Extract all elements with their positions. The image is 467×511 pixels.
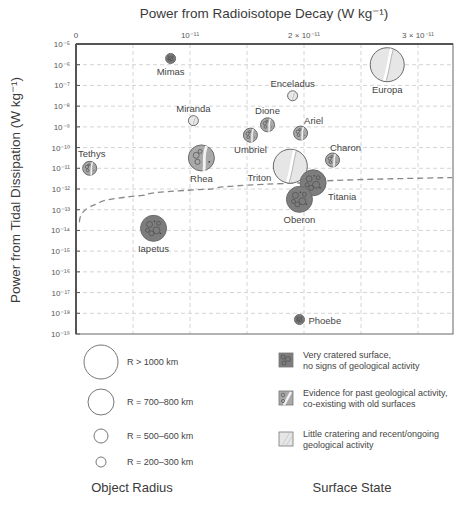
svg-text:co-existing with old surfaces: co-existing with old surfaces [303, 399, 416, 409]
svg-text:R = 700–800 km: R = 700–800 km [127, 397, 193, 407]
svg-text:Little cratering and recent/on: Little cratering and recent/ongoing [303, 429, 439, 439]
y-tick-label: 10⁻⁶ [54, 61, 70, 70]
moon-oberon: Oberon [284, 186, 316, 225]
moon-tethys: Tethys [78, 148, 106, 175]
y-tick-label: 10⁻¹³ [52, 206, 71, 215]
y-tick-label: 10⁻¹¹ [52, 164, 71, 173]
x-tick-label: 0 [74, 31, 79, 40]
moon-dione: Dione [255, 105, 280, 132]
y-tick-label: 10⁻⁸ [54, 102, 70, 111]
y-tick-label: 10⁻⁵ [54, 40, 70, 49]
data-points: MimasTethysMirandaRheaIapetusEnceladusEu… [78, 48, 404, 326]
y-tick-label: 10⁻¹⁸ [51, 309, 70, 318]
legend-surface-item-past: Evidence for past geological activity,co… [279, 388, 447, 409]
moon-label: Umbriel [234, 144, 267, 155]
moon-miranda: Miranda [176, 103, 211, 126]
y-tick-label: 10⁻¹⁴ [51, 226, 71, 235]
moon-mimas: Mimas [157, 54, 185, 77]
moon-umbriel: Umbriel [234, 128, 267, 155]
svg-text:Very cratered surface,: Very cratered surface, [303, 350, 391, 360]
moon-label: Tethys [78, 148, 106, 159]
reference-curve [79, 178, 452, 223]
legend-surface-state: Very cratered surface,no signs of geolog… [279, 350, 447, 495]
moon-phoebe: Phoebe [294, 315, 341, 326]
x-tick-label: 3 × 10⁻¹¹ [402, 31, 434, 40]
moon-label: Enceladus [270, 78, 315, 89]
svg-text:geological activity: geological activity [303, 440, 374, 450]
svg-text:no signs of geological activit: no signs of geological activity [303, 361, 420, 371]
moon-label: Iapetus [138, 243, 169, 254]
moon-label: Ariel [304, 115, 323, 126]
moon-europa: Europa [370, 48, 404, 95]
y-tick-label: 10⁻¹⁵ [51, 247, 70, 256]
moon-label: Charon [330, 142, 361, 153]
moon-label: Titania [328, 191, 357, 202]
legend-size-item: R > 1000 km [84, 345, 178, 379]
x-tick-label: 10⁻¹¹ [181, 31, 200, 40]
svg-text:R > 1000 km: R > 1000 km [127, 357, 178, 367]
legend-size-item: R = 700–800 km [88, 389, 193, 415]
moon-label: Phoebe [308, 315, 341, 326]
y-axis-title: Power from Tidal Dissipation (W kg⁻¹) [8, 77, 23, 303]
y-tick-label: 10⁻¹⁷ [52, 289, 71, 298]
y-tick-label: 10⁻⁹ [54, 123, 70, 132]
legend-size-item: R = 200–300 km [96, 457, 193, 467]
moon-label: Rhea [190, 173, 213, 184]
legend-size-title: Object Radius [91, 480, 173, 495]
x-tick-label: 2 × 10⁻¹¹ [288, 31, 320, 40]
y-tick-label: 10⁻¹⁹ [51, 330, 70, 339]
svg-text:R = 500–600 km: R = 500–600 km [127, 431, 193, 441]
moon-charon: Charon [326, 142, 362, 167]
moon-enceladus: Enceladus [270, 78, 315, 101]
x-axis-title: Power from Radioisotope Decay (W kg⁻¹) [140, 6, 389, 21]
y-tick-label: 10⁻¹² [52, 185, 71, 194]
legend-surface-item-cratered: Very cratered surface,no signs of geolog… [279, 350, 420, 371]
moon-label: Mimas [157, 66, 185, 77]
moon-label: Triton [247, 172, 271, 183]
moon-iapetus: Iapetus [138, 215, 169, 254]
moon-rhea: Rhea [188, 145, 214, 184]
legend-surface-title: Surface State [313, 480, 392, 495]
y-tick-label: 10⁻¹⁶ [51, 268, 70, 277]
moon-label: Dione [255, 105, 280, 116]
moon-label: Europa [372, 84, 403, 95]
moon-label: Miranda [176, 103, 211, 114]
legend-surface-item-active: Little cratering and recent/ongoinggeolo… [279, 429, 439, 450]
y-tick-label: 10⁻⁷ [54, 81, 70, 90]
scatter-chart: Power from Radioisotope Decay (W kg⁻¹) 0… [0, 0, 467, 511]
moon-ariel: Ariel [294, 115, 324, 140]
x-axis-ticks: 010⁻¹¹2 × 10⁻¹¹3 × 10⁻¹¹ [74, 31, 434, 40]
y-tick-label: 10⁻¹⁰ [51, 144, 70, 153]
svg-text:Evidence for past geological a: Evidence for past geological activity, [303, 388, 447, 398]
legend-object-radius: R > 1000 kmR = 700–800 kmR = 500–600 kmR… [84, 345, 193, 495]
svg-text:R = 200–300 km: R = 200–300 km [127, 457, 193, 467]
legend-size-item: R = 500–600 km [94, 429, 193, 443]
moon-label: Oberon [284, 214, 316, 225]
